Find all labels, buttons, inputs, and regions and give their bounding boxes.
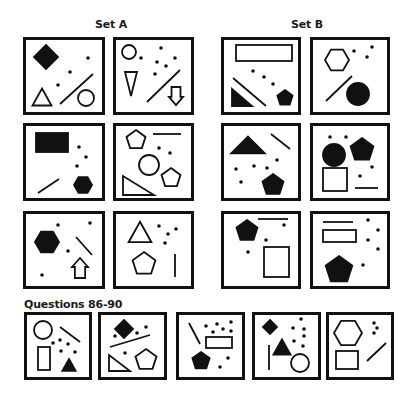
dot-shape (292, 339, 296, 343)
panel-b1 (223, 39, 300, 114)
dot-shape (66, 342, 70, 346)
dot-shape (168, 151, 172, 155)
dot-shape (88, 221, 92, 225)
dot-shape (56, 83, 60, 87)
dot-shape (366, 238, 370, 242)
dot-shape (365, 55, 369, 59)
dot-shape (204, 324, 208, 328)
dot-shape (275, 158, 279, 162)
dot-shape (366, 218, 370, 222)
dot-shape (59, 349, 63, 353)
dot-shape (123, 351, 127, 355)
dot-shape (262, 75, 266, 79)
dot-shape (229, 329, 233, 333)
dot-shape (40, 273, 44, 277)
dot-shape (166, 232, 170, 236)
dot-shape (375, 326, 379, 330)
dot-shape (370, 165, 374, 169)
dot-shape (73, 350, 77, 354)
panel-a2 (115, 39, 193, 114)
puzzle-canvas (0, 0, 415, 398)
dot-shape (211, 330, 215, 334)
panel-frame (115, 213, 193, 288)
dot-shape (361, 263, 365, 267)
dot-shape (77, 145, 81, 149)
dot-shape (370, 45, 374, 49)
panel-a4 (115, 125, 193, 200)
panel-q89 (254, 314, 320, 379)
dot-shape (58, 338, 62, 342)
dot-shape (159, 46, 163, 50)
panel-b4 (312, 125, 389, 200)
dot-shape (246, 250, 250, 254)
panel-frame (115, 125, 193, 200)
panel-b6 (312, 213, 389, 288)
panel-frame (26, 314, 91, 379)
dot-shape (139, 56, 143, 60)
panel-b2 (312, 39, 389, 114)
dot-shape (86, 56, 90, 60)
dot-shape (301, 344, 305, 348)
rectangle-shape (36, 133, 68, 152)
dot-shape (299, 317, 303, 321)
panel-q86 (26, 314, 91, 379)
dot-shape (229, 320, 233, 324)
dot-shape (164, 64, 168, 68)
dot-shape (174, 227, 178, 231)
dot-shape (153, 72, 157, 76)
dot-shape (376, 228, 380, 232)
hexagon-shape (74, 177, 92, 193)
dot-shape (328, 135, 332, 139)
dot-shape (376, 247, 380, 251)
hexagon-shape (35, 232, 59, 253)
dot-shape (75, 164, 79, 168)
panel-a1 (25, 39, 104, 114)
dot-shape (221, 327, 225, 331)
dot-shape (344, 135, 348, 139)
dot-shape (239, 180, 243, 184)
panel-b3 (223, 125, 300, 200)
panel-q88 (178, 314, 244, 379)
dot-shape (157, 224, 161, 228)
dot-shape (302, 327, 306, 331)
dot-shape (264, 238, 268, 242)
panel-a3 (25, 125, 104, 200)
dot-shape (291, 326, 295, 330)
circle-shape (347, 83, 369, 105)
circle-shape (323, 144, 345, 166)
panel-a5 (25, 213, 104, 288)
dot-shape (234, 167, 238, 171)
dot-shape (215, 322, 219, 326)
dot-shape (157, 146, 161, 150)
dot-shape (302, 334, 306, 338)
dot-shape (271, 82, 275, 86)
dot-shape (56, 223, 60, 227)
dot-shape (218, 365, 222, 369)
dot-shape (66, 249, 70, 253)
dot-shape (282, 223, 286, 227)
panel-frame (25, 213, 104, 288)
dot-shape (173, 56, 177, 60)
panel-q90 (328, 314, 393, 379)
dot-shape (252, 164, 256, 168)
dot-shape (372, 321, 376, 325)
panel-frame (223, 125, 300, 200)
panel-b5 (223, 213, 300, 288)
dot-shape (113, 334, 117, 338)
dot-shape (251, 69, 255, 73)
panel-q87 (100, 314, 166, 379)
panel-frame (178, 314, 244, 379)
panel-a6 (115, 213, 193, 288)
dot-shape (226, 356, 230, 360)
dot-shape (163, 241, 167, 245)
dot-shape (84, 155, 88, 159)
dot-shape (352, 49, 356, 53)
dot-shape (358, 174, 362, 178)
dot-shape (155, 60, 159, 64)
dot-shape (144, 325, 148, 329)
dot-shape (51, 341, 55, 345)
dot-shape (372, 331, 376, 335)
dot-shape (265, 166, 269, 170)
dot-shape (135, 331, 139, 335)
dot-shape (68, 70, 72, 74)
